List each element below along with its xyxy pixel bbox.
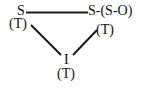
- edge-so-to-i: [73, 30, 97, 55]
- node-s-so-sublabel: (T): [96, 23, 114, 37]
- node-i-sublabel: (T): [57, 67, 75, 81]
- node-s-so-label: S-(S-O): [88, 4, 132, 18]
- node-i-label: I: [64, 53, 69, 67]
- node-s-sublabel: (T): [9, 17, 27, 31]
- triangle-diagram: S (T) S-(S-O) (T) I (T): [0, 0, 141, 88]
- edge-s-to-i: [31, 25, 61, 55]
